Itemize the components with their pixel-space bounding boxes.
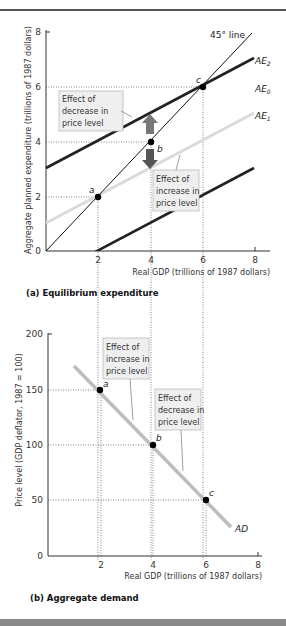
svg-text:decrease in: decrease in [158, 406, 204, 415]
svg-text:price level: price level [62, 119, 103, 128]
point-a [95, 194, 101, 200]
svg-text:price level: price level [106, 367, 147, 376]
y-axis-title-b: Price level (GDP deflator, 1987 = 100) [15, 353, 24, 506]
annotation-increase-price-level-b: Effect of increase in price level [103, 338, 150, 420]
x-tick-label: 4 [148, 255, 154, 265]
panel-a-equilibrium-expenditure: 8 6 4 2 0 2 4 6 8 Real GDP (trillions of… [24, 26, 271, 560]
x-tick-label: 2 [98, 560, 104, 570]
x-tick-label: 8 [252, 255, 258, 265]
ad-label: AD [234, 524, 248, 534]
y-tick-label: 2 [35, 192, 41, 202]
svg-text:Effect of: Effect of [156, 175, 189, 184]
x-tick-label: 6 [200, 255, 206, 265]
y-tick-label: 4 [35, 137, 41, 147]
point-a-label-b: a [103, 379, 109, 389]
point-b [148, 139, 154, 145]
figure-canvas: 8 6 4 2 0 2 4 6 8 Real GDP (trillions of… [0, 0, 286, 626]
ae1-label: AE1 [254, 111, 271, 122]
header-rule [0, 9, 286, 11]
point-a-label: a [89, 185, 95, 195]
panel-b-caption: (b) Aggregate demand [30, 593, 139, 603]
svg-text:Effect of: Effect of [158, 394, 191, 403]
y-tick-label: 8 [35, 27, 41, 37]
point-b-label: b [157, 144, 163, 154]
point-c-label-b: c [209, 488, 214, 498]
y-tick-label: 150 [26, 385, 43, 395]
svg-text:price level: price level [156, 199, 197, 208]
svg-text:increase in: increase in [106, 355, 150, 364]
point-b-label-b: b [156, 433, 162, 443]
x-tick-label: 8 [255, 560, 261, 570]
y-tick-label: 6 [35, 82, 41, 92]
x-axis-title-b: Real GDP (trillions of 1987 dollars) [124, 572, 262, 581]
y-axis-title-a: Aggregate planned expenditure (trillions… [24, 26, 33, 254]
x-axis-title-a: Real GDP (trillions of 1987 dollars) [132, 268, 270, 277]
y-tick-label: 100 [26, 440, 43, 450]
ae2-label: AE2 [254, 56, 271, 67]
svg-text:price level: price level [158, 418, 199, 427]
y-tick-label: 50 [32, 495, 44, 505]
y-tick-label: 0 [37, 551, 43, 561]
x-tick-label: 4 [150, 560, 156, 570]
forty-five-line-label: 45° line [210, 30, 246, 40]
point-c-label: c [196, 75, 201, 85]
y-tick-label: 0 [35, 246, 41, 256]
ae0-label: AE0 [254, 84, 271, 95]
x-tick-label: 6 [203, 560, 209, 570]
svg-text:Effect of: Effect of [62, 95, 95, 104]
footer-rule [0, 619, 286, 626]
annotation-decrease-price-level-a: Effect of decrease in price level [59, 91, 132, 131]
panel-b-aggregate-demand: 200 150 100 50 0 2 4 6 8 Real GDP (trill… [15, 329, 262, 603]
x-tick-label: 2 [95, 255, 101, 265]
y-tick-label: 200 [26, 329, 43, 339]
svg-text:Effect of: Effect of [106, 343, 139, 352]
svg-text:decrease in: decrease in [62, 107, 108, 116]
panel-a-caption: (a) Equilibrium expenditure [26, 288, 159, 298]
svg-text:increase in: increase in [156, 187, 200, 196]
